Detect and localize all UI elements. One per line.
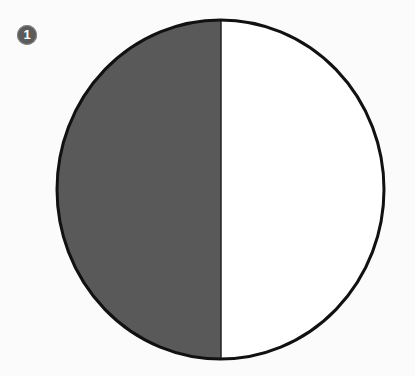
fraction-circle: [0, 0, 415, 376]
